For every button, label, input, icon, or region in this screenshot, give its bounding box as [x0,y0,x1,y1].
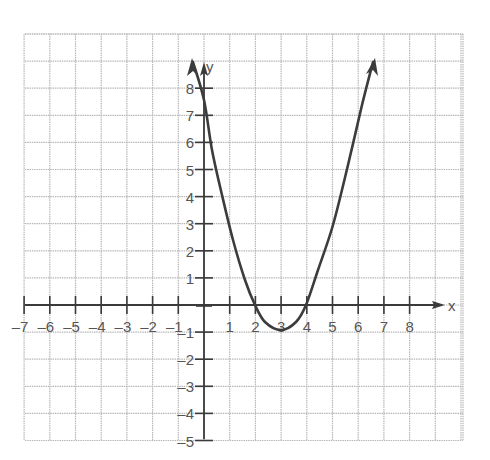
y-tick-label: 6 [186,134,194,151]
x-tick-label: 1 [226,318,234,335]
x-tick-label: 4 [303,318,311,335]
x-tick-label: 7 [380,318,388,335]
x-tick-label: –3 [115,318,132,335]
x-tick-label: 8 [405,318,413,335]
x-tick-label: 2 [251,318,259,335]
x-axis-label: x [448,297,456,314]
y-tick-label: –1 [177,324,194,341]
y-tick-label: 8 [186,80,194,97]
curve-layer [187,58,378,330]
y-tick-label: –4 [177,405,194,422]
y-tick-label: 7 [186,107,194,124]
y-tick-label: 3 [186,216,194,233]
y-tick-label: –5 [177,433,194,450]
y-tick-label: –2 [177,351,194,368]
grid-lines [24,34,463,441]
tick-labels: –7–6–5–4–3–2–11234567887654321–1–2–3–4–5 [12,80,414,449]
x-tick-label: –4 [89,318,106,335]
x-tick-label: 3 [277,318,285,335]
x-tick-label: –5 [63,318,80,335]
x-tick-label: –7 [12,318,29,335]
parabola-graph: –7–6–5–4–3–2–11234567887654321–1–2–3–4–5… [0,0,490,460]
x-tick-label: 6 [354,318,362,335]
y-tick-label: 4 [186,189,194,206]
y-axis-label: y [206,58,214,75]
y-tick-label: 5 [186,162,194,179]
y-tick-label: –3 [177,378,194,395]
y-tick-label: 1 [186,270,194,287]
ticks [24,88,410,440]
x-tick-label: –6 [37,318,54,335]
y-tick-label: 2 [186,243,194,260]
x-tick-label: –2 [140,318,157,335]
x-tick-label: 5 [328,318,336,335]
